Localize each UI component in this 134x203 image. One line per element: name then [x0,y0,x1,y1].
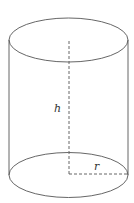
top-ellipse [9,18,128,62]
bottom-ellipse-back [9,153,128,175]
cylinder-diagram: h r [0,0,134,203]
bottom-ellipse-front [9,175,128,198]
radius-label: r [94,160,100,173]
height-label: h [54,102,61,115]
